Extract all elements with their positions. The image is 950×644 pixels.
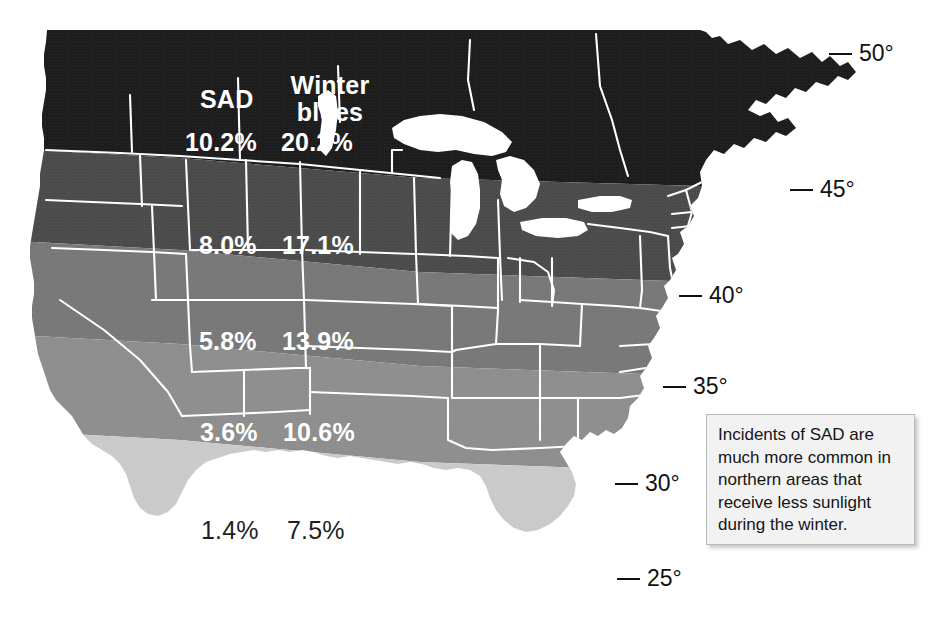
sad-value-35: 3.6% — [200, 418, 258, 447]
column-header-sad: SAD — [200, 86, 253, 113]
sad-value-40: 5.8% — [199, 327, 257, 356]
annotation-callout-text: Incidents of SAD are much more common in… — [718, 424, 904, 537]
latitude-label-30: 30° — [615, 472, 680, 495]
map-figure: SAD Winter blues 10.2% 20.2% 8.0% 17.1% … — [0, 0, 950, 644]
latitude-label-25: 25° — [617, 567, 682, 590]
blues-value-30: 7.5% — [287, 516, 345, 545]
column-header-winter-blues-line2: blues — [278, 99, 382, 126]
latitude-leader-35 — [663, 386, 686, 388]
sad-value-45: 8.0% — [199, 231, 257, 260]
latitude-text-35: 35° — [693, 375, 728, 398]
latitude-label-50: 50° — [829, 42, 894, 65]
latitude-label-45: 45° — [790, 178, 855, 201]
blues-value-45: 17.1% — [282, 231, 354, 260]
north-america-latitude-map — [0, 0, 950, 644]
latitude-label-40: 40° — [679, 284, 744, 307]
latitude-text-30: 30° — [645, 472, 680, 495]
blues-value-50: 20.2% — [281, 128, 353, 157]
blues-value-40: 13.9% — [282, 327, 354, 356]
sad-value-30: 1.4% — [201, 516, 259, 545]
latitude-text-45: 45° — [820, 178, 855, 201]
blues-value-35: 10.6% — [283, 418, 355, 447]
latitude-leader-45 — [790, 189, 813, 191]
latitude-leader-25 — [617, 578, 640, 580]
latitude-leader-30 — [615, 483, 638, 485]
latitude-leader-40 — [679, 295, 702, 297]
column-header-winter-blues-line1: Winter — [278, 72, 382, 99]
latitude-text-50: 50° — [859, 42, 894, 65]
annotation-callout: Incidents of SAD are much more common in… — [706, 414, 915, 545]
column-header-winter-blues: Winter blues — [278, 72, 382, 126]
latitude-band-group — [0, 0, 950, 644]
latitude-leader-50 — [829, 53, 852, 55]
sad-value-50: 10.2% — [185, 128, 257, 157]
latitude-text-25: 25° — [647, 567, 682, 590]
latitude-label-35: 35° — [663, 375, 728, 398]
latitude-text-40: 40° — [709, 284, 744, 307]
